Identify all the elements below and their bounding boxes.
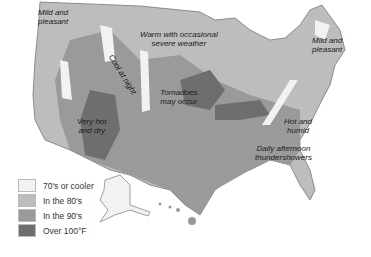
- legend-label: 70's or cooler: [43, 181, 94, 191]
- legend-swatch-eighties: [18, 194, 36, 207]
- legend-item: In the 80's: [18, 193, 94, 208]
- legend-label: In the 90's: [43, 211, 82, 221]
- legend-label: Over 100°F: [43, 226, 87, 236]
- annotation-southeast: Hot and humid: [284, 117, 312, 135]
- annotation-nw: Mild and pleasant: [38, 8, 68, 26]
- annotation-central-north: Warm with occasional severe weather: [140, 30, 218, 48]
- annotation-southwest: Very hot and dry: [77, 117, 107, 135]
- annotation-ne: Mild and pleasant: [312, 36, 342, 54]
- legend-item: Over 100°F: [18, 223, 94, 238]
- alaska: [100, 175, 150, 222]
- legend-swatch-over100: [18, 224, 36, 237]
- legend-swatch-nineties: [18, 209, 36, 222]
- legend-item: 70's or cooler: [18, 178, 94, 193]
- legend: 70's or cooler In the 80's In the 90's O…: [18, 178, 94, 238]
- legend-item: In the 90's: [18, 208, 94, 223]
- legend-swatch-cool: [18, 179, 36, 192]
- annotation-plains: Tornadoes may occur: [160, 88, 198, 106]
- annotation-gulf: Daily afternoon thundershowers: [255, 144, 312, 162]
- legend-label: In the 80's: [43, 196, 82, 206]
